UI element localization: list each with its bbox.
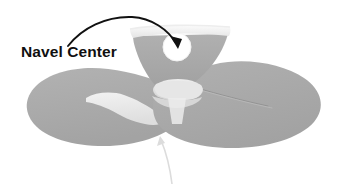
bottom-pointer-arrow (157, 136, 172, 184)
diagram-canvas: Navel Center (0, 0, 339, 184)
navel-center-illustration (0, 0, 339, 184)
